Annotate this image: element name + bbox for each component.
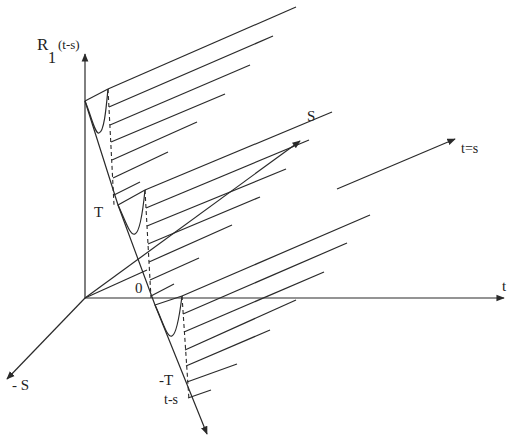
zero-label: 0 — [135, 280, 143, 296]
hatch-line — [150, 258, 199, 280]
peak-connector — [85, 89, 108, 101]
labels: R 1 (t-s) S t=s t - S T 0 -T t-s — [12, 35, 507, 407]
kernel-curve — [118, 190, 145, 234]
kernel-group-top — [85, 7, 296, 205]
hatch-line — [151, 284, 174, 296]
hatch-line — [182, 215, 370, 296]
peak-connector — [118, 190, 145, 205]
hatch-line — [147, 169, 286, 226]
hatch-line — [114, 182, 140, 195]
hatch-line — [112, 122, 197, 160]
hatch-line — [183, 243, 347, 314]
diagonal-label: t=s — [461, 141, 478, 156]
kernel-group-middle — [118, 112, 332, 298]
diagonal-t-equals-s-arrow — [337, 139, 455, 189]
hatch-line — [187, 364, 237, 382]
neg-s-axis-label: - S — [12, 377, 29, 393]
neg-T-label: -T — [159, 372, 173, 388]
T-label: T — [94, 204, 103, 220]
axes — [7, 54, 504, 434]
neg-s-axis-arrow — [7, 298, 85, 379]
peak-connector — [155, 296, 182, 305]
t-axis-label: t — [502, 278, 507, 294]
hatch-line — [146, 140, 309, 208]
y-axis-label-subscript: 1 — [48, 49, 56, 66]
y-axis-label-arg: (t-s) — [58, 37, 80, 52]
t-minus-s-label: t-s — [164, 392, 178, 407]
s-axis-label: S — [307, 108, 315, 124]
hatch-line — [149, 225, 232, 262]
diagram-canvas: R 1 (t-s) S t=s t - S T 0 -T t-s — [0, 0, 515, 438]
hatch-line — [109, 36, 273, 107]
kernel-group-bottom — [155, 215, 370, 400]
hatch-line — [108, 7, 296, 89]
hatch-line — [110, 65, 250, 125]
hatch-line — [145, 112, 332, 190]
hatch-line — [184, 272, 324, 332]
s-axis-arrow — [85, 141, 300, 298]
t-minus-s-axis-arrow — [85, 101, 207, 434]
hatch-line — [186, 330, 270, 366]
